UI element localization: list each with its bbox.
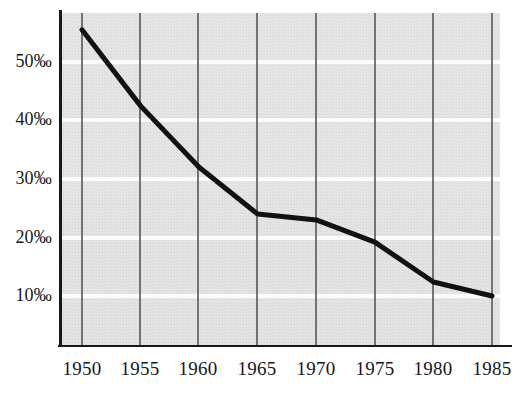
y-tick-label-40: 40‰ <box>2 110 52 128</box>
y-tick-label-30: 30‰ <box>2 169 52 187</box>
y-tick-label-50: 50‰ <box>2 52 52 70</box>
y-tick-label-10: 10‰ <box>2 286 52 304</box>
y-tick-label-20: 20‰ <box>2 228 52 246</box>
line-chart <box>0 0 512 403</box>
chart-container: 50‰ 40‰ 30‰ 20‰ 10‰ 1950 1955 1960 1965 … <box>0 0 512 403</box>
x-tick-label-1985: 1985 <box>452 359 512 378</box>
